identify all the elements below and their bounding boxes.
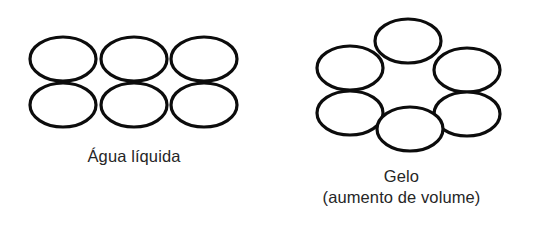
caption-liquid-water: Água líquida [0,146,268,167]
molecule-ellipse [30,37,96,81]
molecule-ellipse [434,48,500,92]
caption-ice: Gelo (aumento de volume) [268,166,535,208]
ice-molecule-cluster [268,0,535,166]
liquid-water-molecule-cluster [0,0,268,146]
molecule-ellipse [101,83,167,127]
panel-ice: Gelo (aumento de volume) [268,0,535,227]
panel-liquid-water: Água líquida [0,0,268,227]
molecule-ellipse [317,46,383,90]
molecule-ellipse [171,37,237,81]
molecule-ellipse [171,83,237,127]
caption-liquid-water-text: Água líquida [0,146,268,167]
caption-ice-subtitle: (aumento de volume) [268,187,535,208]
molecule-ellipse [375,19,441,63]
caption-ice-title: Gelo [268,166,535,187]
molecule-ellipse [317,91,383,135]
molecule-ellipse [101,37,167,81]
molecule-ellipse [377,107,443,151]
molecule-ellipse [30,83,96,127]
water-states-diagram: Água líquida Gelo (aumento de volume) [0,0,535,227]
